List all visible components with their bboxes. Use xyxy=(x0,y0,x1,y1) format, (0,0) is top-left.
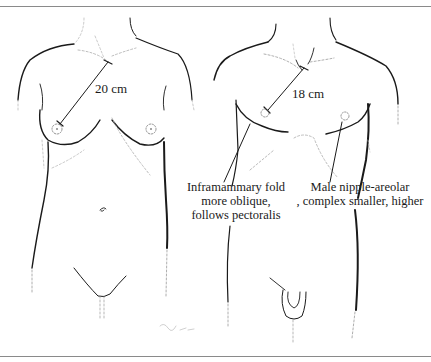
inframammary-fold-note: Inframammary fold more oblique, follows … xyxy=(178,180,294,222)
anatomy-diagram: 20 cm 18 cm Inframammary fold more obliq… xyxy=(0,0,431,362)
male-measurement-label: 18 cm xyxy=(292,87,324,101)
female-torso xyxy=(18,18,194,331)
female-measurement-label: 20 cm xyxy=(95,82,127,96)
nipple-areolar-note: Male nipple-areolar , complex smaller, h… xyxy=(290,180,430,208)
